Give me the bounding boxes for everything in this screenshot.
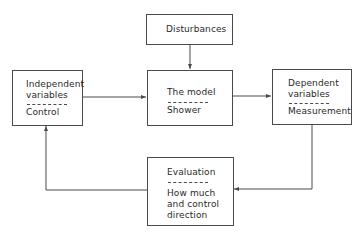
evaluation-divider <box>168 182 208 183</box>
model-label: The model <box>167 87 216 98</box>
independent-label-line2: variables <box>26 90 68 101</box>
dependent-sub-label: Measurement <box>288 106 351 117</box>
dependent-label-line1: Dependent <box>288 78 339 89</box>
dependent-label-line2: variables <box>288 89 330 100</box>
model-divider <box>168 102 208 103</box>
dependent-divider <box>289 103 329 104</box>
independent-divider <box>27 104 67 105</box>
evaluation-sub-line1: How much <box>167 188 215 199</box>
evaluation-sub-line3: direction <box>167 210 207 221</box>
disturbances-label: Disturbances <box>166 24 226 35</box>
model-box: The model Shower <box>147 70 233 126</box>
arrow-evaluation-to-independent <box>46 126 147 190</box>
independent-variables-box: Independent variables Control <box>12 70 83 126</box>
independent-sub-label: Control <box>26 107 59 118</box>
disturbances-box: Disturbances <box>146 14 233 45</box>
arrow-dependent-to-evaluation <box>234 124 312 189</box>
evaluation-label: Evaluation <box>167 167 216 178</box>
dependent-variables-box: Dependent variables Measurement <box>272 69 352 125</box>
independent-label-line1: Independent <box>26 79 84 90</box>
model-sub-label: Shower <box>167 105 201 116</box>
evaluation-box: Evaluation How much and control directio… <box>147 157 234 226</box>
evaluation-sub-line2: and control <box>167 199 219 210</box>
